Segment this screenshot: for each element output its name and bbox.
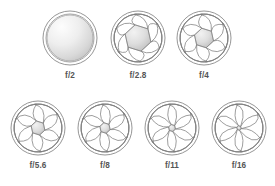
aperture-label-f28: f/2.8 xyxy=(130,71,147,80)
aperture-label-f11: f/11 xyxy=(165,161,179,170)
aperture-label-f16: f/16 xyxy=(232,161,247,170)
aperture-f2[interactable] xyxy=(43,11,97,65)
aperture-diagram: f/2f/2.8f/4f/5.6f/8f/11f/16 xyxy=(0,0,275,186)
aperture-label-f8: f/8 xyxy=(100,161,110,170)
aperture-label-f4: f/4 xyxy=(199,71,209,80)
aperture-label-f2: f/2 xyxy=(65,71,75,80)
aperture-label-f56: f/5.6 xyxy=(30,161,47,170)
aperture-opening xyxy=(47,15,93,61)
